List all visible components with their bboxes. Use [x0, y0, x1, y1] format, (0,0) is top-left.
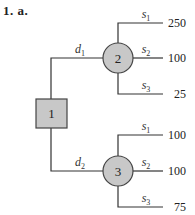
edge-d1: [51, 58, 103, 99]
edge-node2-s1: [118, 23, 163, 43]
payoff-node3-s2: 100: [168, 164, 186, 178]
payoff-node2-s2: 100: [168, 51, 186, 65]
edge-node3-s3: [118, 186, 163, 207]
payoff-node3-s3: 75: [174, 200, 186, 214]
payoff-node2-s3: 25: [174, 87, 186, 101]
label-node2-s1: s1: [142, 7, 151, 23]
edge-node2-s3: [118, 73, 163, 94]
label-d1: d1: [75, 42, 85, 58]
payoff-node2-s1: 250: [168, 16, 186, 30]
label-node2-s2: s2: [142, 42, 151, 58]
payoff-node3-s1: 100: [168, 128, 186, 142]
label-d2: d2: [75, 155, 85, 171]
chance-node-3-label: 3: [115, 164, 122, 179]
decision-tree: 1 2 3 d1 d2 s1 s2 s3 s1 s2 s3 250 100 25…: [0, 0, 195, 215]
label-node2-s3: s3: [142, 78, 151, 94]
decision-node-1-label: 1: [48, 106, 55, 121]
label-node3-s2: s2: [142, 155, 151, 171]
edge-node3-s1: [118, 135, 163, 156]
label-node3-s3: s3: [142, 191, 151, 207]
label-node3-s1: s1: [142, 119, 151, 135]
chance-node-2-label: 2: [115, 51, 122, 66]
